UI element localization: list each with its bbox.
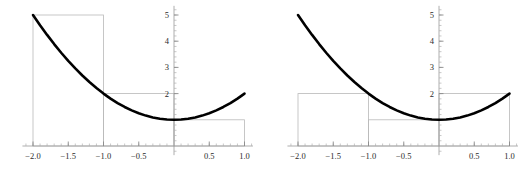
riemann-rect-right-1 — [298, 94, 369, 146]
chart-right-curve — [298, 15, 510, 120]
chart-right-svg: −2.0−1.5−1.0−0.50.51.02345 — [265, 0, 531, 173]
chart-right-tick-labels: −2.0−1.5−1.0−0.50.51.02345 — [290, 10, 515, 161]
y-tick-label-right-3: 4 — [430, 36, 435, 46]
x-tick-label-right-3: −0.5 — [396, 151, 411, 161]
chart-left-tick-labels: −2.0−1.5−1.0−0.50.51.02345 — [25, 10, 250, 161]
chart-left-curve — [33, 15, 245, 120]
y-tick-label-right-1: 2 — [430, 89, 434, 99]
x-tick-label-right-2: −1.0 — [361, 151, 376, 161]
chart-left-riemann-sum: −2.0−1.5−1.0−0.50.51.02345 — [0, 0, 266, 173]
y-tick-label-right-2: 3 — [430, 62, 434, 72]
chart-left-axes — [22, 6, 253, 155]
chart-right-rectangles — [298, 94, 510, 146]
x-tick-label-right-5: 1.0 — [504, 151, 515, 161]
riemann-rect-left-1 — [33, 15, 104, 146]
chart-left-rectangles — [33, 15, 245, 146]
chart-left-svg: −2.0−1.5−1.0−0.50.51.02345 — [0, 0, 266, 173]
x-tick-label-left-5: 1.0 — [239, 151, 250, 161]
y-tick-label-left-1: 2 — [165, 89, 169, 99]
figure-canvas: −2.0−1.5−1.0−0.50.51.02345 −2.0−1.5−1.0−… — [0, 0, 531, 173]
chart-right-axes — [287, 6, 518, 155]
x-tick-label-left-0: −2.0 — [25, 151, 40, 161]
x-tick-label-left-4: 0.5 — [204, 151, 215, 161]
y-tick-label-right-4: 5 — [430, 10, 434, 20]
x-tick-label-left-1: −1.5 — [61, 151, 76, 161]
y-tick-label-left-2: 3 — [165, 62, 169, 72]
x-tick-label-left-3: −0.5 — [131, 151, 146, 161]
chart-left-ticks — [26, 10, 252, 151]
chart-right-ticks — [291, 10, 517, 151]
x-tick-label-right-4: 0.5 — [469, 151, 480, 161]
chart-right-riemann-sum: −2.0−1.5−1.0−0.50.51.02345 — [265, 0, 531, 173]
y-tick-label-left-4: 5 — [165, 10, 169, 20]
x-tick-label-right-1: −1.5 — [326, 151, 341, 161]
x-tick-label-left-2: −1.0 — [96, 151, 111, 161]
y-tick-label-left-3: 4 — [165, 36, 170, 46]
x-tick-label-right-0: −2.0 — [290, 151, 305, 161]
